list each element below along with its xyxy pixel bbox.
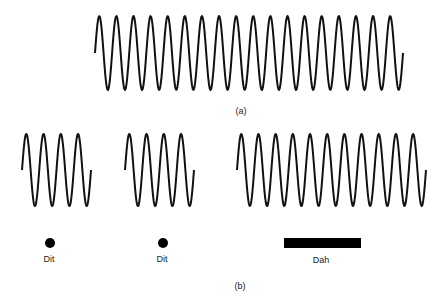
dit-1-dot-symbol (45, 238, 55, 248)
continuous-carrier-wave (95, 16, 403, 90)
part-a-label: (a) (236, 106, 247, 116)
dit-2-label: Dit (157, 254, 168, 264)
morse-code-figure (0, 0, 443, 300)
dit-1-label: Dit (44, 254, 55, 264)
part-b-label: (b) (235, 281, 246, 291)
dah-bar-symbol (284, 238, 361, 248)
dah-label: Dah (313, 255, 330, 265)
dit-1-wave-burst (22, 134, 91, 206)
dah-wave-burst (237, 134, 426, 206)
dit-2-dot-symbol (158, 238, 168, 248)
dit-2-wave-burst (125, 134, 194, 206)
